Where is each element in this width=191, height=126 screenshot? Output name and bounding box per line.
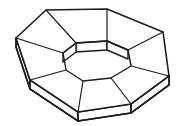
octagonal-ring-figure: Octagonal ring solid Line drawing of an … <box>0 0 191 126</box>
